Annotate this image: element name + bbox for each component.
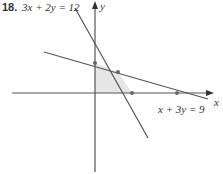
y-axis-arrow-icon [92, 1, 98, 9]
graph: 18. 3x + 2y = 12 y x x + 3y = 9 [0, 0, 223, 174]
y-axis-label: y [99, 0, 105, 12]
line-3x-2y-12 [75, 8, 148, 138]
feasible-region [95, 63, 132, 93]
vertex-dot [93, 61, 97, 65]
vertex-dot [175, 91, 179, 95]
equation-label-bottom: x + 3y = 9 [157, 103, 205, 115]
x-axis-arrow-icon [206, 90, 214, 96]
problem-number: 18. [2, 1, 17, 13]
x-axis-label: x [213, 96, 219, 108]
vertex-dot [116, 70, 120, 74]
equation-label-top: 3x + 2y = 12 [21, 1, 80, 13]
vertex-dot [130, 91, 134, 95]
